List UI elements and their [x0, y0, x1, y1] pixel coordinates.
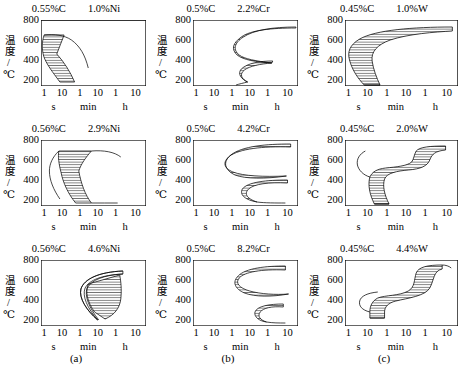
column-label-c: (c): [304, 352, 464, 364]
x-tick-1-min: 1: [384, 327, 389, 338]
x-tick-10-s: 10: [57, 207, 68, 218]
x-tick-10-h: 10: [441, 327, 452, 338]
y-tick-600: 600: [175, 35, 191, 45]
x-tick-1-min: 1: [229, 87, 234, 98]
x-tick-10-h: 10: [130, 87, 141, 98]
x-tick-10-min: 10: [244, 87, 255, 98]
x-tick-10-s: 10: [362, 87, 373, 98]
x-tick-1-min: 1: [384, 207, 389, 218]
y-tick-400: 400: [327, 55, 343, 65]
panel-r1c2: 0.5%C 2.2%Cr 温度/℃ 800 600 400 200: [152, 0, 304, 120]
panel-carbon-label: 0.55%C: [32, 3, 66, 14]
x-tick-1-h: 1: [265, 327, 270, 338]
plot-area-r1c1: 温度/℃ 800 600 400 200: [0, 14, 152, 118]
panel-alloy-label: 4.6%Ni: [88, 243, 120, 254]
y-tick-800: 800: [175, 135, 191, 145]
y-axis-ticks: 800 600 400 200: [166, 134, 192, 212]
panel-r2c1: 0.56%C 2.9%Ni 温度/℃ 800 600 400 200: [0, 120, 152, 240]
x-tick-1-s: 1: [194, 207, 199, 218]
y-axis-ticks: 800 600 400 200: [14, 134, 40, 212]
x-axis-ticks-r2c3: 1 10 1 10 1 10: [345, 207, 458, 219]
panel-alloy-label: 4.4%W: [396, 243, 428, 254]
panel-title-r2c2: 0.5%C 4.2%Cr: [152, 121, 304, 135]
x-tick-1-min: 1: [77, 207, 82, 218]
y-tick-800: 800: [327, 135, 343, 145]
x-axis-ticks-r3c1: 1 10 1 10 1 10: [41, 327, 146, 339]
x-tick-1-h: 1: [113, 87, 118, 98]
x-tick-1-h: 1: [113, 327, 118, 338]
x-unit-h: h: [433, 101, 438, 113]
x-axis-units-r1c3: s min h: [345, 101, 458, 114]
x-tick-10-h: 10: [282, 207, 293, 218]
y-tick-200: 200: [23, 75, 39, 85]
x-unit-min: min: [80, 221, 96, 233]
panel-title-r1c2: 0.5%C 2.2%Cr: [152, 1, 304, 15]
x-axis-units-r2c1: s min h: [41, 221, 146, 234]
y-tick-600: 600: [23, 155, 39, 165]
x-tick-1-min: 1: [229, 327, 234, 338]
x-unit-s: s: [52, 221, 56, 233]
ttt-diagram-figure: 0.55%C 1.0%Ni 温度/℃ 800 600 400 200: [0, 0, 464, 368]
x-unit-min: min: [80, 101, 96, 113]
panel-title-r2c1: 0.56%C 2.9%Ni: [0, 121, 152, 135]
y-tick-800: 800: [23, 15, 39, 25]
x-axis-ticks-r1c2: 1 10 1 10 1 10: [193, 87, 298, 99]
y-tick-800: 800: [327, 15, 343, 25]
panel-r1c3: 0.45%C 1.0%W 温度/℃ 800 600 400 200: [304, 0, 464, 120]
y-axis-ticks: 800 600 400 200: [14, 254, 40, 332]
y-tick-400: 400: [23, 55, 39, 65]
x-tick-10-h: 10: [130, 327, 141, 338]
x-tick-10-min: 10: [92, 207, 103, 218]
x-tick-10-min: 10: [401, 327, 412, 338]
x-axis-units-r1c1: s min h: [41, 101, 146, 114]
plot-frame-r1c1: [41, 20, 146, 86]
panel-carbon-label: 0.45%C: [340, 243, 374, 254]
panel-alloy-label: 1.0%W: [396, 3, 428, 14]
panel-r3c3: 0.45%C 4.4%W 温度/℃ 800 600 400 200: [304, 240, 464, 368]
x-tick-1-h: 1: [265, 207, 270, 218]
y-axis-ticks: 800 600 400 200: [166, 14, 192, 92]
y-tick-600: 600: [327, 35, 343, 45]
column-label-a: (a): [0, 352, 152, 364]
x-tick-10-min: 10: [401, 207, 412, 218]
y-tick-200: 200: [175, 75, 191, 85]
x-axis-units-r2c3: s min h: [345, 221, 458, 234]
x-tick-1-h: 1: [423, 327, 428, 338]
y-tick-200: 200: [175, 315, 191, 325]
panel-alloy-label: 4.2%Cr: [237, 123, 269, 134]
x-unit-s: s: [52, 101, 56, 113]
panel-alloy-label: 2.9%Ni: [88, 123, 120, 134]
x-tick-1-s: 1: [42, 207, 47, 218]
x-unit-min: min: [232, 221, 248, 233]
y-tick-600: 600: [23, 35, 39, 45]
y-tick-800: 800: [23, 255, 39, 265]
y-tick-200: 200: [327, 315, 343, 325]
plot-frame-r3c3: [345, 260, 458, 326]
x-tick-1-s: 1: [346, 327, 351, 338]
x-tick-10-min: 10: [244, 327, 255, 338]
panel-r3c2: 0.5%C 8.2%Cr 温度/℃ 800 600 400 200: [152, 240, 304, 368]
plot-frame-r3c1: [41, 260, 146, 326]
y-tick-600: 600: [175, 275, 191, 285]
x-axis-ticks-r2c2: 1 10 1 10 1 10: [193, 207, 298, 219]
plot-area-r2c3: 温度/℃ 800 600 400 200: [304, 134, 464, 238]
panel-title-r1c3: 0.45%C 1.0%W: [304, 1, 464, 15]
panel-title-r3c1: 0.56%C 4.6%Ni: [0, 241, 152, 255]
x-tick-1-s: 1: [194, 87, 199, 98]
y-tick-400: 400: [175, 55, 191, 65]
plot-area-r2c1: 温度/℃ 800 600 400 200: [0, 134, 152, 238]
x-tick-1-h: 1: [423, 87, 428, 98]
x-tick-10-min: 10: [244, 207, 255, 218]
panel-title-r2c3: 0.45%C 2.0%W: [304, 121, 464, 135]
plot-frame-r2c1: [41, 140, 146, 206]
x-unit-s: s: [204, 101, 208, 113]
x-unit-min: min: [388, 101, 404, 113]
x-unit-h: h: [274, 101, 279, 113]
x-tick-1-min: 1: [384, 87, 389, 98]
x-tick-1-min: 1: [229, 207, 234, 218]
plot-area-r1c3: 温度/℃ 800 600 400 200: [304, 14, 464, 118]
y-tick-400: 400: [175, 295, 191, 305]
y-tick-600: 600: [327, 275, 343, 285]
y-axis-ticks: 800 600 400 200: [318, 134, 344, 212]
y-tick-200: 200: [175, 195, 191, 205]
